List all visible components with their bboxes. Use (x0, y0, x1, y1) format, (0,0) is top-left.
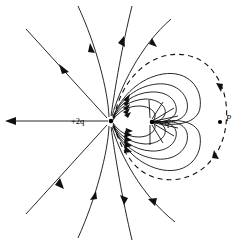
left-arrow-icon (5, 117, 16, 125)
up-2-arrow-icon (118, 36, 125, 47)
down-3-arrow-icon (148, 198, 157, 206)
up-1-arrow-icon (88, 43, 95, 53)
neg-line-7 (152, 102, 163, 119)
field-loops-upper (113, 73, 200, 124)
positive-charge-label: +2q (71, 116, 85, 126)
field-line-upper-left (26, 29, 107, 118)
field-diagram-svg: +2q −q P (0, 0, 248, 246)
field-line-down-1 (78, 126, 109, 238)
field-line-up-1 (78, 6, 109, 117)
negative-charge-label: −q (160, 118, 170, 128)
field-line-figure: +2q −q P (0, 0, 248, 246)
field-loops-lower (113, 121, 200, 171)
positive-charge-dot (109, 119, 114, 124)
loop-10-arrow-icon (125, 128, 133, 134)
field-lines-escaping (5, 6, 175, 240)
gaussian-arrow-upper-icon (216, 83, 223, 92)
field-line-lower-left (26, 125, 107, 214)
up-3-arrow-icon (149, 38, 157, 47)
neg-line-8 (149, 100, 150, 118)
gaussian-arrow-lower-icon (212, 150, 219, 159)
upper-left-arrow-icon (59, 64, 69, 74)
down-1-arrow-icon (90, 191, 97, 200)
lower-left-arrow-icon (55, 178, 64, 189)
negative-charge-dot (150, 120, 155, 125)
point-p-dot (218, 120, 222, 124)
point-p-label: P (225, 113, 231, 123)
down-2-arrow-icon (120, 195, 128, 205)
